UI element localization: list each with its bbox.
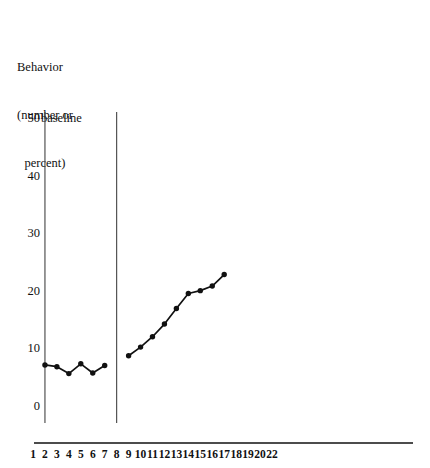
x-tick-label-3: 3 (54, 447, 60, 461)
x-tick-label-8: 8 (114, 447, 120, 461)
x-tick-label-2: 2 (42, 447, 48, 461)
x-axis-ticks: 123456789101112131415161718192022 (0, 447, 430, 465)
x-tick-label-1: 1 (30, 447, 36, 461)
x-tick-label-13: 13 (171, 447, 183, 461)
data-point-intervention-session-13 (174, 306, 179, 311)
data-point-intervention-session-12 (162, 321, 167, 326)
data-point-baseline-session-6 (90, 370, 95, 375)
series-line-baseline (45, 364, 105, 374)
x-tick-label-12: 12 (159, 447, 171, 461)
data-point-intervention-session-15 (198, 288, 203, 293)
x-tick-label-15: 15 (195, 447, 207, 461)
x-tick-label-7: 7 (102, 447, 108, 461)
data-point-intervention-session-14 (186, 291, 191, 296)
behavior-chart: Behavior (number or percent) 50403020100… (0, 0, 430, 468)
x-tick-label-19: 19 (242, 447, 254, 461)
plot-area (0, 0, 430, 468)
x-tick-label-10: 10 (135, 447, 147, 461)
x-tick-label-6: 6 (90, 447, 96, 461)
data-point-intervention-session-17 (222, 272, 227, 277)
data-point-intervention-session-9 (126, 353, 131, 358)
data-point-intervention-session-10 (138, 344, 143, 349)
data-point-intervention-session-11 (150, 334, 155, 339)
data-point-baseline-session-5 (78, 361, 83, 366)
x-tick-label-4: 4 (66, 447, 72, 461)
x-tick-label-18: 18 (230, 447, 242, 461)
data-point-baseline-session-7 (102, 363, 107, 368)
x-tick-label-9: 9 (126, 447, 132, 461)
x-tick-label-22: 22 (266, 447, 278, 461)
data-point-baseline-session-2 (42, 362, 47, 367)
x-tick-label-17: 17 (218, 447, 230, 461)
x-tick-label-5: 5 (78, 447, 84, 461)
x-tick-label-16: 16 (207, 447, 219, 461)
data-point-baseline-session-3 (54, 364, 59, 369)
x-tick-label-11: 11 (147, 447, 158, 461)
data-point-baseline-session-4 (66, 371, 71, 376)
data-point-intervention-session-16 (210, 283, 215, 288)
x-tick-label-14: 14 (183, 447, 195, 461)
x-tick-label-20: 20 (254, 447, 266, 461)
